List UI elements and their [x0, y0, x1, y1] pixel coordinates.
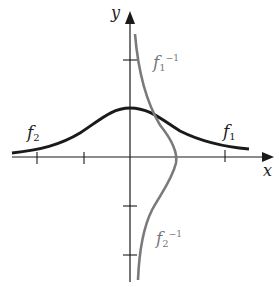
label-f2-inverse: f2−1 — [156, 230, 182, 249]
label-f1-inverse: f1−1 — [153, 54, 179, 73]
y-axis-label: y — [111, 5, 120, 21]
diagram-canvas — [0, 0, 279, 287]
x-axis-label: x — [263, 163, 272, 179]
label-f1: f1 — [223, 123, 236, 142]
y-axis-arrow-icon — [125, 11, 135, 24]
label-f2: f2 — [27, 124, 40, 143]
